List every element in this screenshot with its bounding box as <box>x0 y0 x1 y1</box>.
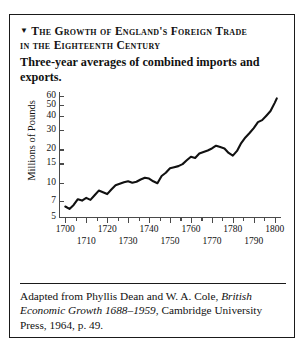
y-tick-mark <box>60 217 64 218</box>
x-tick-mark <box>180 218 181 221</box>
x-tick-label-minor: 1790 <box>244 236 263 246</box>
y-tick-mark <box>60 116 64 117</box>
y-tick-mark <box>60 163 64 164</box>
x-tick-mark <box>222 218 223 221</box>
x-tick-mark <box>76 218 77 221</box>
x-tick-label-major: 1800 <box>265 224 284 234</box>
x-tick-mark <box>233 218 234 223</box>
x-tick-mark <box>149 218 150 223</box>
x-tick-mark <box>191 218 192 223</box>
x-tick-label-major: 1780 <box>223 224 242 234</box>
y-tick-mark <box>60 149 64 150</box>
y-tick-mark <box>60 96 64 97</box>
y-tick-mark <box>60 201 64 202</box>
figure-title-line-2: in the Eighteenth Century <box>20 39 284 53</box>
x-tick-mark <box>86 218 87 223</box>
x-tick-label-minor: 1750 <box>161 236 180 246</box>
x-tick-label-major: 1760 <box>181 224 200 234</box>
x-tick-mark <box>254 218 255 223</box>
y-tick-mark <box>60 105 64 106</box>
x-tick-mark <box>201 218 202 221</box>
x-tick-mark <box>275 218 276 223</box>
caption-source-text: Adapted from Phyllis Dean and W. A. Cole… <box>20 290 218 302</box>
x-tick-mark <box>65 218 66 223</box>
x-tick-mark <box>118 218 119 221</box>
y-tick-mark <box>60 183 64 184</box>
x-tick-mark <box>170 218 171 223</box>
x-tick-label-major: 1720 <box>98 224 117 234</box>
x-tick-mark <box>128 218 129 223</box>
x-tick-mark <box>97 218 98 221</box>
caption-divider <box>20 283 286 284</box>
x-tick-mark <box>264 218 265 221</box>
figure-container: ▼The Growth of England's Foreign Trade i… <box>9 14 295 338</box>
x-tick-label-minor: 1710 <box>77 236 96 246</box>
title-block: ▼The Growth of England's Foreign Trade i… <box>10 15 294 84</box>
triangle-marker-icon: ▼ <box>20 26 28 35</box>
x-tick-label-major: 1700 <box>56 224 75 234</box>
x-tick-mark <box>107 218 108 223</box>
x-tick-label-major: 1740 <box>140 224 159 234</box>
x-tick-mark <box>212 218 213 223</box>
x-tick-mark <box>139 218 140 221</box>
figure-title-text-1: The Growth of England's Foreign Trade <box>31 25 247 37</box>
x-tick-mark <box>160 218 161 221</box>
x-tick-label-minor: 1770 <box>202 236 221 246</box>
figure-caption: Adapted from Phyllis Dean and W. A. Cole… <box>20 289 288 332</box>
chart-plot-area: Millions of Pounds 6050403020151075 1700… <box>10 88 296 243</box>
y-tick-mark <box>60 130 64 131</box>
figure-subtitle: Three-year averages of combined imports … <box>20 55 284 84</box>
x-tick-label-minor: 1730 <box>119 236 138 246</box>
x-tick-mark <box>243 218 244 221</box>
figure-title-line-1: ▼The Growth of England's Foreign Trade <box>20 24 284 39</box>
